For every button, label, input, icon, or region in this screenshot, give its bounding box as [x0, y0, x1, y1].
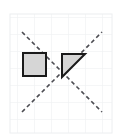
figure-canvas [0, 0, 124, 137]
gray-square [23, 53, 46, 76]
geometry-figure [0, 0, 124, 137]
